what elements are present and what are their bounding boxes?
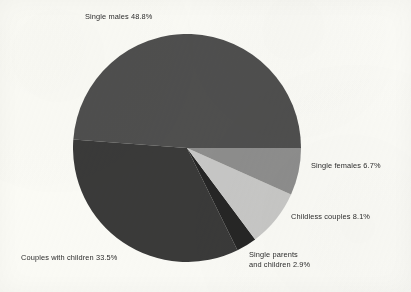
pie-label-childless-couples: Childless couples 8.1%: [291, 212, 370, 222]
pie-label-couples-with-children-text: Couples with children 33.5%: [21, 253, 118, 263]
pie-label-single-parents-line2: and children 2.9%: [249, 260, 310, 270]
pie-chart: [73, 34, 301, 262]
pie-label-childless-couples-text: Childless couples 8.1%: [291, 212, 370, 222]
pie-label-single-males: Single males 48.8%: [85, 12, 152, 22]
pie-slices: [73, 34, 301, 262]
pie-label-single-parents-line1: Single parents: [249, 250, 310, 260]
chart-page: Single males 48.8% Single females 6.7% C…: [0, 0, 411, 292]
pie-label-single-females: Single females 6.7%: [311, 161, 381, 171]
pie-label-single-males-text: Single males 48.8%: [85, 12, 152, 22]
pie-label-single-females-text: Single females 6.7%: [311, 161, 381, 171]
pie-slice-single-males[interactable]: [73, 34, 301, 148]
pie-label-couples-with-children: Couples with children 33.5%: [21, 253, 118, 263]
pie-label-single-parents-and-children: Single parents and children 2.9%: [249, 250, 310, 269]
pie-chart-svg: [73, 34, 301, 262]
